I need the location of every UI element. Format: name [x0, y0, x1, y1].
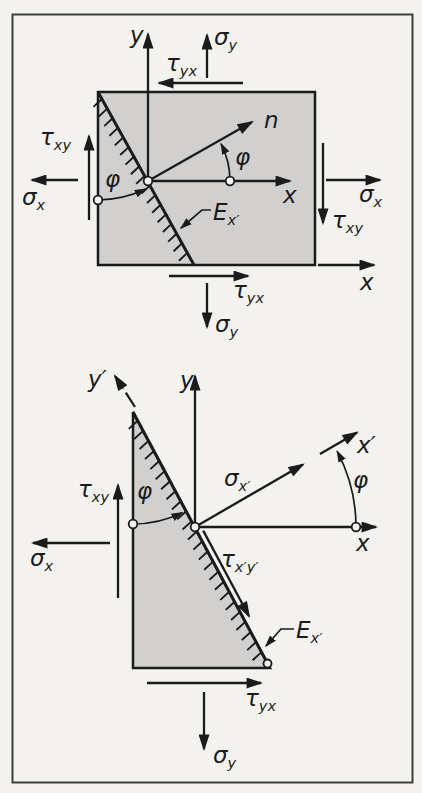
sigma-x-left-label: σx	[30, 545, 54, 574]
x-axis-outer-label: x	[359, 269, 374, 295]
origin-node-marker	[144, 177, 153, 186]
x-axis-label: x	[355, 530, 370, 556]
tau-xy-right-label: τxy	[332, 207, 363, 236]
sigma-x-prime-label: σx′	[224, 465, 251, 494]
wedge-corner-node-marker	[264, 660, 272, 668]
element-body	[98, 92, 315, 265]
x-axis-node-marker	[352, 523, 361, 532]
tau-x-prime-y-prime-label: τx′y′	[221, 546, 259, 575]
sigma-y-top-label: σy	[214, 24, 238, 53]
left-edge-node-marker	[94, 196, 103, 205]
y-prime-axis-arrow	[115, 376, 135, 407]
cut-plane-label: Ex′	[296, 617, 323, 646]
phi-right-label: φ	[353, 467, 368, 493]
x-prime-axis-arrow	[320, 433, 357, 454]
x-axis-node-marker	[226, 177, 235, 186]
figure-page: y x n φ φ σy τyx σx τxy σx τxy x τyx σy	[0, 0, 422, 793]
sigma-x-left-label: σx	[22, 184, 46, 213]
tau-xy-left-label: τxy	[40, 124, 71, 153]
phi-right-label: φ	[235, 144, 250, 170]
origin-node-marker	[191, 523, 200, 532]
y-axis-label: y	[129, 22, 144, 48]
tau-yx-bottom-label: τyx	[233, 277, 264, 306]
left-edge-node-marker	[129, 520, 138, 529]
sigma-x-prime-arrow	[195, 465, 303, 528]
y-axis-label: y	[179, 367, 194, 393]
sigma-y-bottom-label: σy	[213, 742, 237, 771]
tau-yx-top-label: τyx	[166, 50, 197, 79]
y-prime-axis-label: y′	[87, 366, 108, 392]
normal-axis-label: n	[264, 107, 279, 133]
tau-yx-bottom-label: τyx	[245, 685, 276, 714]
cut-plane-leader	[266, 629, 294, 646]
x-prime-axis-label: x′	[356, 432, 377, 458]
tau-xy-left-label: τxy	[78, 476, 109, 505]
phi-inner-label: φ	[137, 478, 152, 504]
stress-transformation-figure: y x n φ φ σy τyx σx τxy σx τxy x τyx σy	[0, 0, 422, 793]
sigma-x-right-label: σx	[359, 181, 383, 210]
x-axis-label: x	[282, 182, 297, 208]
top-diagram: y x n φ φ σy τyx σx τxy σx τxy x τyx σy	[22, 22, 383, 340]
phi-left-label: φ	[105, 166, 120, 192]
sigma-y-bottom-label: σy	[215, 311, 239, 340]
bottom-diagram: y x y′ x′ σx′ τx′y′ φ φ τxy σx τyx σy Ex…	[30, 366, 377, 771]
